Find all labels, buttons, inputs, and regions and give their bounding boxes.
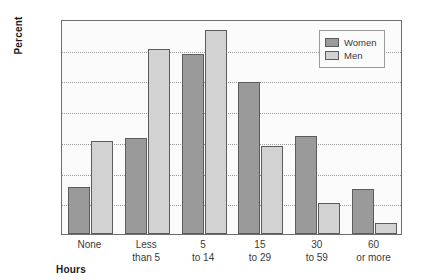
bar-men (261, 146, 283, 234)
legend-label-men: Men (344, 50, 362, 61)
bar-women (238, 82, 260, 234)
bar-women (352, 189, 374, 234)
x-tick-label: 60or more (337, 239, 411, 264)
bar-women (295, 136, 317, 234)
legend-item-men: Men (325, 50, 377, 61)
legend-swatch-women-icon (325, 38, 339, 47)
legend-item-women: Women (325, 37, 377, 48)
bar-group (182, 21, 227, 234)
bar-chart: Percent 05101520253035 NoneLessthan 55to… (0, 0, 422, 280)
bar-women (125, 138, 147, 234)
bar-women (182, 54, 204, 234)
legend-swatch-men-icon (325, 51, 339, 60)
bar-group (125, 21, 170, 234)
y-axis-title: Percent (13, 6, 24, 66)
legend-label-women: Women (344, 37, 377, 48)
bar-men (91, 141, 113, 234)
bar-men (375, 223, 397, 234)
bar-men (318, 203, 340, 234)
bar-men (205, 30, 227, 234)
legend: Women Men (319, 30, 385, 68)
bar-group (68, 21, 113, 234)
bar-men (148, 49, 170, 235)
bar-group (238, 21, 283, 234)
x-axis-title: Hours (56, 264, 86, 275)
bar-women (68, 187, 90, 234)
